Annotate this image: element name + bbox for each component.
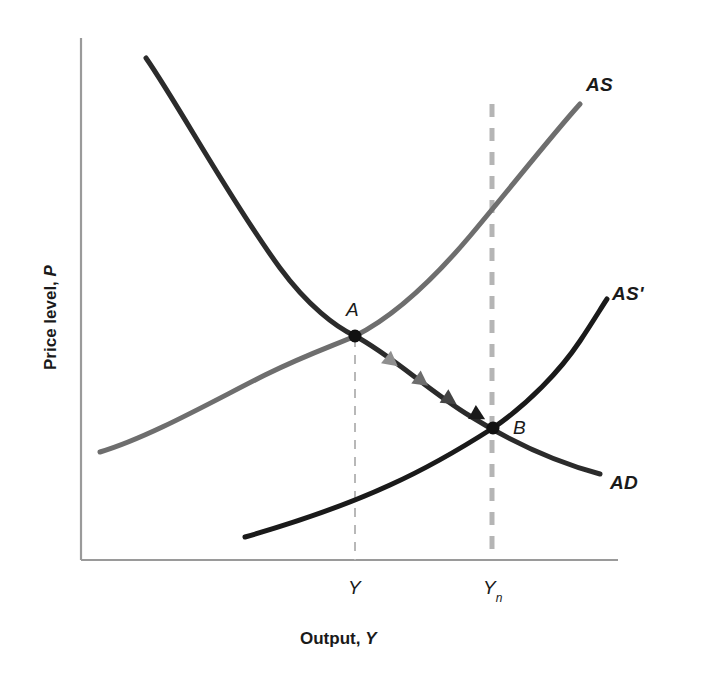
curve-ad (146, 58, 600, 474)
x-axis-title-text: Output, (300, 629, 365, 648)
point-label-a: A (346, 300, 359, 319)
curve-label-ad: AD (610, 473, 638, 492)
y-axis-title: Price level, P (42, 265, 59, 370)
y-axis-title-text: Price level, (41, 276, 60, 370)
x-axis-title-variable: Y (365, 629, 376, 648)
y-axis-title-variable: P (41, 265, 60, 276)
chart-canvas (0, 0, 720, 673)
curve-label-as: AS (586, 75, 613, 94)
x-axis-title: Output, Y (300, 630, 377, 647)
curve-label-as-prime: AS' (612, 284, 644, 303)
point-label-b: B (513, 418, 526, 437)
x-tick-label-y-text: Y (348, 577, 361, 598)
chart-figure: Price level, P Output, Y Y Yn A B AS AS'… (0, 0, 720, 673)
x-tick-label-yn-text: Y (483, 577, 496, 598)
x-tick-label-y: Y (348, 578, 361, 597)
x-tick-label-yn-subscript: n (496, 591, 503, 605)
equilibrium-point-a (349, 330, 362, 343)
equilibrium-point-b (487, 422, 500, 435)
curve-as (100, 104, 580, 452)
curve-as-prime (245, 299, 607, 537)
x-tick-label-yn: Yn (483, 578, 502, 601)
